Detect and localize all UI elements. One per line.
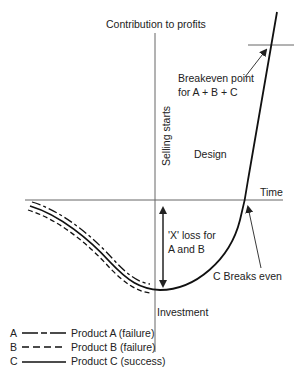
breakeven-label-line2: for A + B + C	[178, 86, 238, 99]
y-axis-label: Contribution to profits	[106, 18, 206, 31]
product-c-curve	[30, 12, 277, 290]
solid-line-icon	[22, 357, 66, 365]
legend-item-c: C Product C (success)	[10, 354, 166, 368]
investment-label: Investment	[157, 306, 208, 319]
legend-item-a: A Product A (failure)	[10, 326, 166, 340]
legend-key: B	[10, 340, 22, 354]
legend-label: Product C (success)	[71, 354, 166, 368]
time-axis-label: Time	[260, 186, 283, 199]
breakeven-label-line1: Breakeven point	[178, 72, 254, 85]
loss-label-line2: A and B	[168, 243, 205, 256]
c-breakeven-pointer-arrow	[248, 207, 261, 268]
legend-label: Product A (failure)	[71, 326, 154, 340]
dash-dot-line-icon	[22, 329, 66, 337]
legend-key: A	[10, 326, 22, 340]
legend: A Product A (failure) B Product B (failu…	[10, 326, 166, 368]
legend-key: C	[10, 354, 22, 368]
legend-item-b: B Product B (failure)	[10, 340, 166, 354]
c-breakeven-label: C Breaks even	[213, 270, 282, 283]
dashed-line-icon	[22, 343, 66, 351]
loss-label-line1: 'X' loss for	[168, 229, 216, 242]
design-label: Design	[194, 148, 227, 161]
legend-label: Product B (failure)	[71, 340, 156, 354]
selling-starts-label: Selling starts	[160, 106, 172, 166]
